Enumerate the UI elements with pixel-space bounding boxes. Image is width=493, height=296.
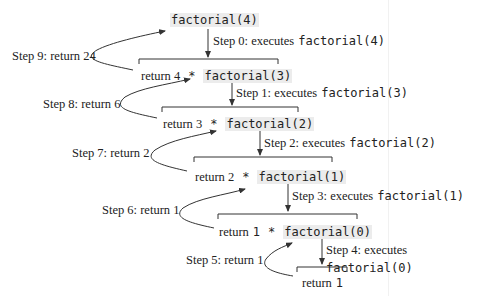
step-2-label: Step 2: executes factorial(2): [264, 133, 436, 151]
level-2-expression: return 2 * factorial(1): [195, 167, 346, 185]
step-1-label: Step 1: executes factorial(3): [236, 83, 408, 101]
level-1-expression: return 3 * factorial(2): [163, 114, 314, 132]
level-4-expression: return 1: [302, 273, 343, 291]
level-3-expression: return 1 * factorial(0): [219, 222, 372, 240]
step-0-label: Step 0: executes factorial(4): [213, 31, 385, 49]
top-call-label: factorial(4): [170, 13, 259, 27]
step-9-return-label: Step 9: return 24: [12, 49, 96, 64]
step-3-label: Step 3: executes factorial(1): [292, 186, 464, 204]
step-6-return-label: Step 6: return 1: [102, 203, 179, 218]
step-5-return-label: Step 5: return 1: [186, 253, 263, 268]
level-0-expression: return 4 * factorial(3): [141, 66, 292, 84]
step-8-return-label: Step 8: return 6: [43, 97, 120, 112]
step-7-return-label: Step 7: return 2: [72, 146, 149, 161]
factorial-trace-diagram: factorial(4) Step 0: executes factorial(…: [0, 0, 493, 296]
step-4-label: Step 4: executes factorial(0): [326, 240, 493, 276]
